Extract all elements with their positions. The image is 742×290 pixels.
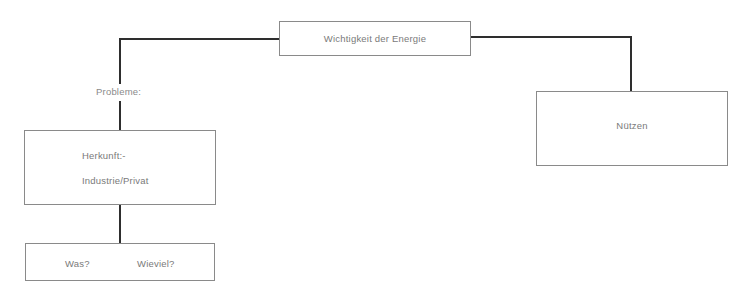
origin-node-line1: Herkunft:-	[82, 150, 126, 161]
root-node-label: Wichtigkeit der Energie	[280, 33, 470, 44]
benefits-node: Nützen	[536, 91, 728, 166]
connector-right-vertical	[630, 36, 632, 92]
origin-node-line2: Industrie/Privat	[82, 175, 149, 186]
connector-origin-to-detail	[119, 204, 121, 244]
connector-left-vertical-upper	[119, 38, 121, 84]
origin-node: Herkunft:- Industrie/Privat	[24, 130, 216, 205]
detail-node-item-what: Was?	[65, 258, 90, 269]
connector-root-left-horizontal	[119, 38, 280, 40]
connector-root-right-horizontal	[470, 36, 632, 38]
root-node: Wichtigkeit der Energie	[279, 21, 471, 56]
benefits-node-label: Nützen	[537, 120, 727, 131]
connector-left-vertical-lower	[119, 101, 121, 131]
detail-node-item-how-much: Wieviel?	[137, 258, 175, 269]
problems-connector-label: Probleme:	[96, 86, 141, 97]
detail-node: Was? Wieviel?	[25, 243, 215, 281]
